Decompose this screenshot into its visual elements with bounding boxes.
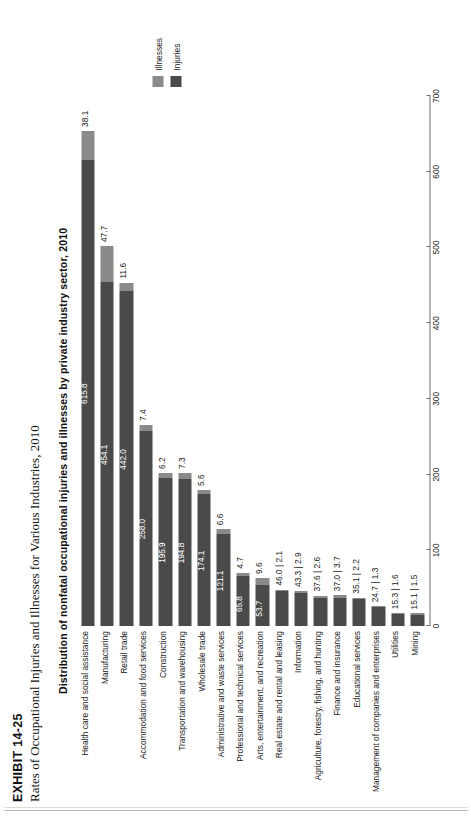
bar-row[interactable]: Utilities15.3 | 1.6 — [388, 96, 407, 626]
stacked-bar[interactable] — [81, 131, 94, 626]
bar-row[interactable]: Management of companies and enterprises2… — [369, 96, 388, 626]
bar-segment-illnesses[interactable] — [81, 131, 94, 160]
bar-value-illnesses: 7.4 — [137, 409, 147, 421]
bar-segment-injuries[interactable] — [313, 598, 326, 626]
bar-segment-illnesses[interactable] — [216, 529, 229, 534]
x-axis-tick-mark — [426, 95, 430, 96]
category-label: Accommodation and food services — [137, 631, 147, 759]
bar-row[interactable]: Real estate and rental and leasing46.0 |… — [272, 96, 291, 626]
bar-row[interactable]: Professional and technical services65.84… — [233, 96, 252, 626]
bar-segment-illnesses[interactable] — [255, 578, 268, 585]
bar-segment-injuries[interactable] — [333, 598, 346, 626]
stacked-bar[interactable] — [275, 590, 288, 626]
stacked-bar[interactable] — [313, 596, 326, 626]
bar-row[interactable]: Educational services35.1 | 2.2 — [349, 96, 368, 626]
x-axis-tick-mark — [426, 549, 430, 550]
category-label: Mining — [409, 631, 419, 656]
category-label: Professional and technical services — [234, 631, 244, 762]
bar-value-label: 15.1 | 1.5 — [408, 575, 418, 610]
bar-segment-illnesses[interactable] — [391, 613, 404, 614]
bar-value-illnesses: 11.6 — [117, 263, 127, 279]
stacked-bar[interactable] — [410, 613, 423, 626]
legend-label: Injuries — [171, 44, 181, 71]
bar-row[interactable]: Administrative and waste services121.16.… — [214, 96, 233, 626]
bar-row[interactable]: Information43.3 | 2.9 — [291, 96, 310, 626]
bar-row[interactable]: Arts, entertainment, and recreation53.79… — [253, 96, 272, 626]
bar-value-illnesses: 38.1 — [79, 111, 89, 127]
bar-row[interactable]: Mining15.1 | 1.5 — [408, 96, 427, 626]
bar-segment-illnesses[interactable] — [236, 573, 249, 577]
bar-segment-injuries[interactable] — [410, 615, 423, 626]
exhibit-page: EXHIBIT 14-25 Rates of Occupational Inju… — [0, 0, 471, 816]
x-axis-tick-mark — [426, 246, 430, 247]
bar-value-label: 46.0 | 2.1 — [273, 551, 283, 586]
bar-value-injuries: 53.7 — [254, 601, 263, 617]
bar-value-illnesses: 5.6 — [195, 474, 205, 486]
bar-segment-illnesses[interactable] — [371, 606, 384, 607]
legend-item[interactable]: Injuries — [170, 38, 181, 87]
bar-row[interactable]: Retail trade442.011.6 — [117, 96, 136, 626]
bar-segment-illnesses[interactable] — [100, 246, 113, 282]
category-label: Management of companies and enterprises — [370, 631, 380, 792]
bar-segment-illnesses[interactable] — [119, 283, 132, 292]
bar-segment-injuries[interactable] — [371, 607, 384, 626]
bar-segment-injuries[interactable] — [352, 599, 365, 626]
legend-swatch-icon — [152, 76, 163, 87]
category-label: Educational services — [351, 631, 361, 708]
bar-segment-illnesses[interactable] — [313, 596, 326, 598]
bar-segment-injuries[interactable] — [275, 591, 288, 626]
bar-row[interactable]: Construction195.96.2 — [156, 96, 175, 626]
bar-segment-illnesses[interactable] — [294, 591, 307, 593]
bar-value-label: 15.3 | 1.6 — [389, 574, 399, 609]
stacked-bar[interactable] — [333, 595, 346, 626]
bar-segment-illnesses[interactable] — [333, 595, 346, 598]
bar-segment-illnesses[interactable] — [158, 473, 171, 478]
legend-label: Illnesses — [153, 38, 163, 71]
bar-segment-illnesses[interactable] — [410, 613, 423, 614]
bar-segment-illnesses[interactable] — [178, 473, 191, 479]
chart-legend: IllnessesInjuries — [152, 38, 181, 87]
bar-value-injuries: 194.8 — [176, 543, 185, 564]
x-axis-tick-label: 400 — [430, 316, 440, 330]
bar-row[interactable]: Accommodation and food services258.07.4 — [136, 96, 155, 626]
bar-row[interactable]: Finance and insurance37.0 | 3.7 — [330, 96, 349, 626]
category-label: Administrative and waste services — [215, 631, 225, 757]
category-label: Information — [292, 631, 302, 673]
bar-value-injuries: 258.0 — [137, 519, 146, 540]
page-edge-rule — [4, 810, 467, 811]
bar-row[interactable]: Manufacturing454.147.7 — [97, 96, 116, 626]
category-label: Real estate and rental and leasing — [273, 631, 283, 758]
bar-segment-injuries[interactable] — [391, 614, 404, 626]
x-axis-tick-label: 600 — [430, 165, 440, 179]
stacked-bar[interactable] — [352, 598, 365, 626]
bar-row[interactable]: Agriculture, forestry, fishing, and hunt… — [311, 96, 330, 626]
bar-segment-illnesses[interactable] — [275, 590, 288, 592]
chart-container: Distribution of nonfatal occupational in… — [56, 22, 456, 764]
chart-title: Distribution of nonfatal occupational in… — [56, 228, 68, 694]
x-axis-tick-mark — [426, 322, 430, 323]
plot-area: Health care and social assistance615.838… — [78, 96, 430, 626]
bar-row[interactable]: Transportation and warehousing194.87.3 — [175, 96, 194, 626]
category-label: Utilities — [389, 631, 399, 658]
bar-value-illnesses: 6.2 — [156, 457, 166, 469]
x-axis-tick-label: 300 — [430, 392, 440, 406]
bar-value-label: 37.0 | 3.7 — [331, 556, 341, 591]
bar-segment-illnesses[interactable] — [139, 425, 152, 431]
bar-row[interactable]: Wholesale trade174.15.6 — [194, 96, 213, 626]
legend-item[interactable]: Illnesses — [152, 38, 163, 87]
x-axis-ticks: 0100200300400500600700 — [430, 96, 446, 626]
bar-segment-injuries[interactable] — [294, 593, 307, 626]
category-label: Transportation and warehousing — [176, 631, 186, 751]
bar-value-injuries: 195.9 — [157, 542, 166, 563]
bar-row[interactable]: Health care and social assistance615.838… — [78, 96, 97, 626]
bar-value-injuries: 442.0 — [118, 449, 127, 470]
x-axis-tick-label: 200 — [430, 468, 440, 482]
stacked-bar[interactable] — [371, 606, 384, 626]
stacked-bar[interactable] — [391, 613, 404, 626]
bar-segment-illnesses[interactable] — [352, 598, 365, 600]
stacked-bar[interactable] — [100, 246, 113, 626]
bar-value-label: 37.6 | 2.6 — [311, 557, 321, 592]
category-label: Manufacturing — [99, 631, 109, 684]
bar-segment-illnesses[interactable] — [197, 490, 210, 494]
stacked-bar[interactable] — [294, 591, 307, 626]
